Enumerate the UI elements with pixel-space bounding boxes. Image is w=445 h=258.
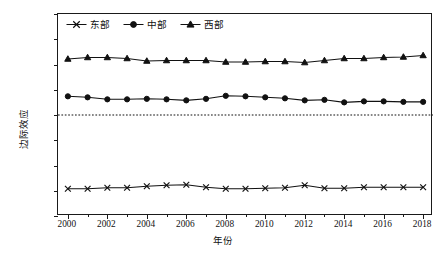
x-axis-minor-tick-mark [324,214,325,217]
chart-figure: 边际效应 0.200.150.100.050.00-0.05-0.10-0.15… [0,0,445,258]
y-axis-tick-mark [54,39,59,40]
y-axis-tick-mark [54,90,59,91]
x-axis-tick-mark [305,214,306,219]
y-axis-tick-mark [54,140,59,141]
y-axis-title-container: 边际效应 [8,0,28,258]
legend-item-东部[interactable]: 东部 [66,19,110,30]
legend-item-西部[interactable]: 西部 [180,19,224,30]
x-axis-minor-tick-mark [285,214,286,217]
x-axis-title: 年份 [0,233,445,247]
x-axis-minor-tick-mark [403,214,404,217]
data-point-marker [105,97,110,102]
x-axis-tick-mark [68,214,69,219]
data-point-marker [302,98,307,103]
y-axis-tick-mark [54,166,59,167]
data-point-marker [421,99,426,104]
data-point-marker [420,52,426,58]
y-axis-tick-mark [54,65,59,66]
y-axis-title: 边际效应 [16,86,30,172]
data-point-marker [342,100,347,105]
data-point-marker [322,97,327,102]
x-axis-tick-label: 2014 [334,219,353,229]
x-axis-minor-tick-mark [206,214,207,217]
x-axis-tick-label: 2018 [413,219,432,229]
data-point-marker [401,99,406,104]
data-point-marker [144,96,149,101]
data-point-marker [381,99,386,104]
y-axis-tick-mark [54,216,59,217]
data-point-marker [164,97,169,102]
data-point-marker [263,95,268,100]
x-axis-tick-label: 2012 [294,219,313,229]
x-axis-minor-tick-mark [167,214,168,217]
x-axis-tick-mark [265,214,266,219]
chart-legend: 东部中部西部 [66,19,224,30]
series-中部 [65,93,425,105]
x-axis-minor-tick-mark [364,214,365,217]
legend-marker-circle-icon [123,19,144,30]
x-axis-tick-label: 2000 [58,219,77,229]
y-axis-tick-mark [54,14,59,15]
x-axis-tick-mark [384,214,385,219]
x-axis-tick-label: 2008 [215,219,234,229]
data-point-marker [65,94,70,99]
x-axis-tick-label: 2016 [373,219,392,229]
x-axis-minor-tick-mark [127,214,128,217]
x-axis-minor-tick-mark [88,214,89,217]
legend-label: 东部 [90,20,110,30]
x-axis-tick-mark [186,214,187,219]
legend-label: 中部 [147,20,167,30]
data-point-marker [361,99,366,104]
x-axis-tick-mark [107,214,108,219]
legend-item-中部[interactable]: 中部 [123,19,167,30]
x-axis-tick-label: 2002 [97,219,116,229]
data-point-marker [223,93,228,98]
series-canvas [58,14,433,216]
data-point-marker [124,97,129,102]
data-point-marker [243,94,248,99]
data-point-marker [203,96,208,101]
x-axis-tick-mark [423,214,424,219]
y-axis-tick-mark [54,191,59,192]
x-axis-tick-label: 2006 [176,219,195,229]
data-point-marker [85,95,90,100]
x-axis-minor-tick-mark [246,214,247,217]
data-point-marker [282,96,287,101]
plot-area [57,13,432,215]
legend-label: 西部 [204,20,224,30]
series-东部 [65,182,426,192]
legend-marker-x-icon [66,19,87,30]
x-axis-tick-mark [147,214,148,219]
x-axis-tick-label: 2010 [255,219,274,229]
x-axis-tick-label: 2004 [137,219,156,229]
y-axis-tick-mark [54,115,59,116]
x-axis-tick-mark [226,214,227,219]
legend-marker-triangle-icon [180,19,201,30]
series-西部 [65,52,427,65]
data-point-marker [184,98,189,103]
x-axis-tick-mark [344,214,345,219]
